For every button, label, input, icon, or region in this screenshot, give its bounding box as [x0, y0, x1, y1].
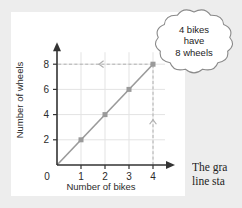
y-tick-label: 8: [43, 59, 49, 70]
y-tick-label: 6: [43, 84, 49, 95]
cloud-callout: 4 bikes have 8 wheels: [152, 7, 236, 75]
x-axis-arrowhead: [166, 161, 175, 169]
cloud-callout-text: 4 bikes have 8 wheels: [152, 7, 236, 75]
page-background: 01234 2468 Number of bikes Number of whe…: [0, 0, 242, 208]
y-axis-arrowhead: [53, 42, 61, 51]
callout-line-1: 4 bikes: [179, 24, 209, 36]
y-tick-label: 2: [43, 134, 49, 145]
data-point-marker: [103, 112, 108, 117]
y-tick-labels: 2468: [43, 59, 49, 146]
y-axis-title: Number of wheels: [14, 61, 25, 138]
y-tick-label: 4: [43, 109, 49, 120]
x-tick-label: 0: [44, 171, 50, 182]
body-line-1: The gra: [192, 160, 242, 174]
callout-line-3: 8 wheels: [175, 47, 213, 59]
callout-line-2: have: [184, 35, 205, 47]
x-axis-title: Number of bikes: [66, 181, 135, 192]
data-point-marker: [79, 137, 84, 142]
body-line-2: line sta: [192, 174, 242, 188]
x-tick-label: 4: [150, 171, 156, 182]
data-point-marker: [127, 87, 132, 92]
body-paragraph: The gra line sta: [192, 160, 242, 188]
